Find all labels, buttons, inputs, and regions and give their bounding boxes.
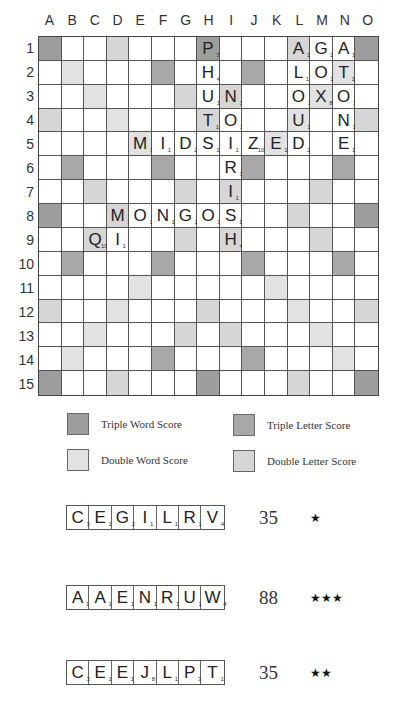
board-cell-h6[interactable] [197,156,220,180]
board-cell-d7[interactable] [107,180,130,204]
board-cell-l4[interactable]: U1 [288,109,311,133]
board-cell-k9[interactable] [265,228,288,252]
board-cell-a14[interactable] [39,347,62,371]
board-cell-k11[interactable] [265,276,288,300]
board-cell-i9[interactable]: H4 [220,228,243,252]
board-cell-m7[interactable] [310,180,333,204]
board-cell-i8[interactable]: S1 [220,204,243,228]
board-cell-a9[interactable] [39,228,62,252]
board-cell-h12[interactable] [197,300,220,324]
board-cell-i15[interactable] [220,371,243,395]
board-cell-o15[interactable] [355,371,378,395]
board-cell-j10[interactable] [242,252,265,276]
board-cell-f15[interactable] [152,371,175,395]
board-cell-i14[interactable] [220,347,243,371]
board-cell-k2[interactable] [265,61,288,85]
board-cell-b3[interactable] [62,85,85,109]
board-cell-n12[interactable] [333,300,356,324]
board-cell-g5[interactable]: D2 [175,132,198,156]
board-cell-l12[interactable] [288,300,311,324]
board-cell-f12[interactable] [152,300,175,324]
rack-tile[interactable]: E1 [112,661,134,684]
board-cell-a13[interactable] [39,323,62,347]
board-cell-g8[interactable]: G2 [175,204,198,228]
board-cell-a1[interactable] [39,37,62,61]
board-cell-l1[interactable]: A1 [288,37,311,61]
board-cell-e10[interactable] [129,252,152,276]
board-cell-d5[interactable] [107,132,130,156]
board-cell-d8[interactable]: M3 [107,204,130,228]
board-cell-k8[interactable] [265,204,288,228]
board-cell-f8[interactable]: N1 [152,204,175,228]
rack-tile[interactable]: T1 [201,661,223,684]
board-cell-n5[interactable]: E1 [333,132,356,156]
board-cell-b7[interactable] [62,180,85,204]
rack-tile[interactable]: L1 [157,506,179,529]
board-cell-j6[interactable] [242,156,265,180]
board-cell-o14[interactable] [355,347,378,371]
board-cell-h3[interactable]: U1 [197,85,220,109]
board-cell-n9[interactable] [333,228,356,252]
board-cell-k3[interactable] [265,85,288,109]
board-cell-b9[interactable] [62,228,85,252]
board-cell-d12[interactable] [107,300,130,324]
board-cell-n10[interactable] [333,252,356,276]
board-cell-e14[interactable] [129,347,152,371]
board-cell-n13[interactable] [333,323,356,347]
board-cell-k13[interactable] [265,323,288,347]
board-cell-j15[interactable] [242,371,265,395]
board-cell-n8[interactable] [333,204,356,228]
board-cell-d13[interactable] [107,323,130,347]
board-cell-b8[interactable] [62,204,85,228]
board-cell-b1[interactable] [62,37,85,61]
board-cell-m13[interactable] [310,323,333,347]
board-cell-i12[interactable] [220,300,243,324]
rack-tile[interactable]: G2 [112,506,134,529]
board-cell-j7[interactable] [242,180,265,204]
board-cell-l7[interactable] [288,180,311,204]
board-cell-g11[interactable] [175,276,198,300]
board-cell-k10[interactable] [265,252,288,276]
board-cell-e8[interactable]: O1 [129,204,152,228]
board-cell-j4[interactable] [242,109,265,133]
board-cell-c9[interactable]: Q10 [84,228,107,252]
board-cell-a12[interactable] [39,300,62,324]
board-cell-h11[interactable] [197,276,220,300]
board-cell-n7[interactable] [333,180,356,204]
board-cell-b2[interactable] [62,61,85,85]
rack-tile[interactable]: U1 [179,586,201,609]
board-cell-n15[interactable] [333,371,356,395]
board-cell-a15[interactable] [39,371,62,395]
board-cell-a7[interactable] [39,180,62,204]
board-cell-e13[interactable] [129,323,152,347]
board-cell-m9[interactable] [310,228,333,252]
board-cell-o12[interactable] [355,300,378,324]
rack-tile[interactable]: E1 [112,586,134,609]
board-cell-o7[interactable] [355,180,378,204]
board-cell-n1[interactable]: A1 [333,37,356,61]
board-cell-l8[interactable] [288,204,311,228]
board-cell-e6[interactable] [129,156,152,180]
board-cell-c1[interactable] [84,37,107,61]
board-cell-f3[interactable] [152,85,175,109]
board-cell-b11[interactable] [62,276,85,300]
board-cell-o6[interactable] [355,156,378,180]
board-cell-j13[interactable] [242,323,265,347]
rack-tile[interactable]: A1 [89,586,111,609]
board-cell-f13[interactable] [152,323,175,347]
board-cell-h2[interactable]: H4 [197,61,220,85]
board-cell-f9[interactable] [152,228,175,252]
board-cell-l9[interactable] [288,228,311,252]
board-cell-c5[interactable] [84,132,107,156]
board-cell-b14[interactable] [62,347,85,371]
board-cell-l13[interactable] [288,323,311,347]
board-cell-d2[interactable] [107,61,130,85]
rack-tile[interactable]: E1 [89,661,111,684]
board-cell-l14[interactable] [288,347,311,371]
board-cell-g2[interactable] [175,61,198,85]
board-cell-m4[interactable] [310,109,333,133]
board-cell-j1[interactable] [242,37,265,61]
board-cell-g13[interactable] [175,323,198,347]
board-cell-e9[interactable] [129,228,152,252]
board-cell-m5[interactable] [310,132,333,156]
